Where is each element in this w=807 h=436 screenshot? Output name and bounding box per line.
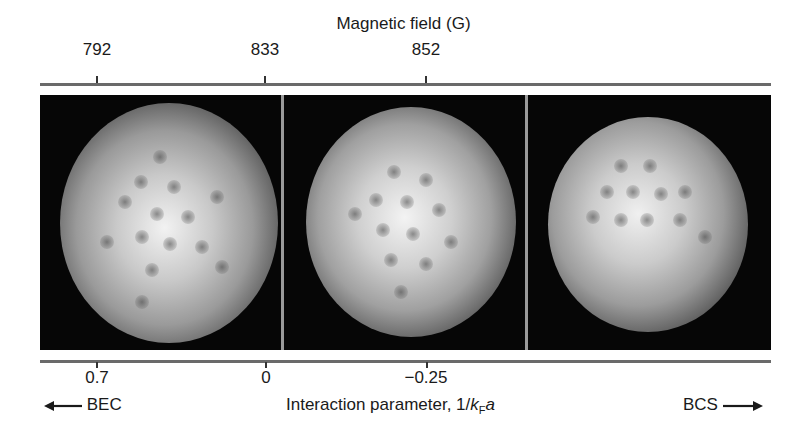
bcs-regime-label: BCS <box>683 395 763 415</box>
vortex-core <box>698 230 712 244</box>
axis-title-k: k <box>470 395 479 414</box>
vortex-core <box>181 210 195 224</box>
vortex-core <box>135 230 149 244</box>
axis-title-text: Interaction parameter, 1/ <box>286 395 470 414</box>
arrow-left-icon <box>44 400 82 412</box>
atom-cloud <box>306 107 516 337</box>
image-strip <box>40 95 771 350</box>
bottom-tick-label-0.7: 0.7 <box>85 368 109 388</box>
bec-text: BEC <box>87 395 122 414</box>
vortex-core <box>640 213 654 227</box>
vortex-core <box>614 213 628 227</box>
bottom-axis-title: Interaction parameter, 1/kFa <box>286 395 495 416</box>
bottom-axis-line <box>40 360 771 363</box>
vortex-core <box>678 185 692 199</box>
vortex-core <box>215 260 229 274</box>
vortex-core <box>614 159 628 173</box>
vortex-core <box>153 150 167 164</box>
vortex-core <box>195 240 209 254</box>
vortex-core <box>163 237 177 251</box>
vortex-core <box>384 253 398 267</box>
vortex-core <box>387 165 401 179</box>
vortex-image-panel-852G <box>528 95 771 350</box>
vortex-core <box>135 295 149 309</box>
vortex-core <box>134 175 148 189</box>
vortex-core <box>673 213 687 227</box>
bottom-tick-label-minus-0.25: −0.25 <box>404 368 447 388</box>
vortex-core <box>145 263 159 277</box>
atom-cloud <box>60 103 278 343</box>
vortex-image-panel-833G <box>284 95 526 350</box>
bec-regime-label: BEC <box>44 395 122 415</box>
axis-title-subscript: F <box>479 404 486 416</box>
vortex-core <box>432 203 446 217</box>
axis-title-a: a <box>486 395 495 414</box>
vortex-core <box>626 185 640 199</box>
vortex-core <box>150 207 164 221</box>
top-tick-label-852: 852 <box>412 40 440 60</box>
vortex-core <box>419 173 433 187</box>
vortex-core <box>100 235 114 249</box>
arrow-right-icon <box>723 400 763 412</box>
vortex-core <box>210 190 224 204</box>
vortex-core <box>167 180 181 194</box>
vortex-core <box>118 195 132 209</box>
vortex-core <box>444 235 458 249</box>
top-tick-label-833: 833 <box>251 40 279 60</box>
vortex-core <box>600 185 614 199</box>
bottom-tick-label-0: 0 <box>261 368 270 388</box>
top-tick-label-792: 792 <box>83 40 111 60</box>
vortex-core <box>406 227 420 241</box>
vortex-core <box>654 187 668 201</box>
vortex-core <box>394 285 408 299</box>
vortex-image-panel-792G <box>40 95 282 350</box>
top-axis-title: Magnetic field (G) <box>0 14 807 34</box>
vortex-core <box>369 193 383 207</box>
vortex-core <box>400 195 414 209</box>
vortex-core <box>586 210 600 224</box>
top-axis-line <box>40 83 771 86</box>
vortex-core <box>419 257 433 271</box>
vortex-core <box>348 207 362 221</box>
vortex-core <box>643 159 657 173</box>
vortex-core <box>376 223 390 237</box>
bcs-text: BCS <box>683 395 718 414</box>
